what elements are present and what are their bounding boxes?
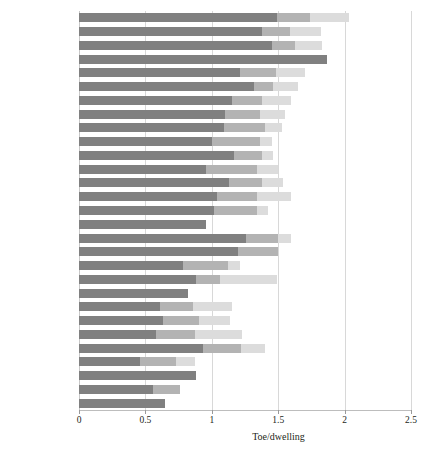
bar-segment-2	[163, 316, 199, 325]
bar-row: Ireland	[79, 25, 411, 39]
stacked-bar	[79, 165, 278, 174]
x-tick-mark	[345, 410, 346, 414]
bar-row: Malta	[79, 396, 411, 410]
bar-segment-3	[290, 27, 321, 36]
x-axis-title: Toe/dwelling	[252, 431, 305, 442]
bar-segment-2	[240, 68, 276, 77]
bar-row: Slovenia	[79, 217, 411, 231]
stacked-bar	[79, 41, 322, 50]
bar-row: Portugal	[79, 369, 411, 383]
bar-segment-2	[272, 41, 296, 50]
bar-segment-3	[265, 123, 282, 132]
bar-segment-1	[79, 178, 229, 187]
bar-segment-2	[212, 137, 260, 146]
bar-segment-3	[276, 68, 305, 77]
bar-row: Italy	[79, 286, 411, 300]
bar-row: Austria	[79, 66, 411, 80]
stacked-bar	[79, 302, 232, 311]
bar-segment-1	[79, 289, 188, 298]
chart-container: FinlandIrelandBelgiumNorwayAustriaLatvia…	[0, 0, 427, 457]
bar-segment-3	[241, 344, 265, 353]
bar-row: Denmark	[79, 94, 411, 108]
x-tick-mark	[79, 410, 80, 414]
stacked-bar	[79, 289, 188, 298]
bar-segment-2	[140, 357, 176, 366]
bar-row: Spain	[79, 355, 411, 369]
bar-row: Croatia	[79, 314, 411, 328]
bar-segment-1	[79, 110, 225, 119]
bar-segment-3	[260, 137, 272, 146]
x-axis-title-wrap: Toe/dwelling	[0, 431, 427, 442]
bar-segment-3	[295, 41, 322, 50]
bar-segment-1	[79, 27, 262, 36]
bar-segment-2	[214, 206, 256, 215]
bar-segment-2	[225, 110, 260, 119]
stacked-bar	[79, 399, 165, 408]
bar-segment-1	[79, 151, 234, 160]
x-tick-label: 0	[59, 415, 99, 425]
bar-segment-3	[257, 206, 268, 215]
bar-segment-2	[196, 275, 220, 284]
bar-segment-1	[79, 399, 165, 408]
stacked-bar	[79, 110, 285, 119]
bar-segment-1	[79, 302, 160, 311]
stacked-bar	[79, 206, 268, 215]
bar-segment-1	[79, 344, 203, 353]
bar-segment-3	[278, 234, 291, 243]
bar-segment-1	[79, 13, 277, 22]
stacked-bar	[79, 137, 272, 146]
bar-segment-3	[176, 357, 195, 366]
bar-row: Poland	[79, 245, 411, 259]
bar-row: Sweden	[79, 121, 411, 135]
x-tick-label: 0.5	[125, 415, 165, 425]
bar-row: United Kingdom	[79, 162, 411, 176]
x-tick-mark	[411, 410, 412, 414]
bar-segment-1	[79, 247, 238, 256]
bar-row: Finland	[79, 11, 411, 25]
bar-row: EU-27	[79, 204, 411, 218]
bar-segment-2	[277, 13, 310, 22]
bar-segment-1	[79, 123, 224, 132]
bar-row: Estonia	[79, 135, 411, 149]
bar-segment-2	[183, 261, 228, 270]
bar-segment-2	[232, 96, 263, 105]
gridline-2-5	[411, 11, 412, 410]
bar-row: Norway	[79, 52, 411, 66]
x-tick-mark	[212, 410, 213, 414]
stacked-bar	[79, 96, 291, 105]
bar-segment-2	[246, 234, 278, 243]
bar-segment-1	[79, 357, 140, 366]
bar-row: Romania	[79, 300, 411, 314]
stacked-bar	[79, 178, 283, 187]
bar-segment-3	[262, 96, 291, 105]
bar-row: Greece	[79, 259, 411, 273]
bar-segment-2	[153, 385, 180, 394]
bar-row: Belgium	[79, 39, 411, 53]
bar-row: Latvia	[79, 80, 411, 94]
bar-row: Czech Republic	[79, 176, 411, 190]
bar-segment-3	[262, 178, 283, 187]
stacked-bar	[79, 82, 298, 91]
bar-row: France	[79, 149, 411, 163]
bar-segment-3	[273, 82, 298, 91]
x-tick-mark	[145, 410, 146, 414]
bar-segment-2	[238, 247, 278, 256]
bar-segment-1	[79, 55, 327, 64]
stacked-bar	[79, 344, 265, 353]
stacked-bar	[79, 123, 282, 132]
bar-segment-1	[79, 220, 206, 229]
stacked-bar	[79, 261, 240, 270]
x-axis-line	[79, 410, 411, 411]
bar-segment-2	[254, 82, 273, 91]
bar-row: Lithuania	[79, 341, 411, 355]
bar-segment-1	[79, 41, 272, 50]
stacked-bar	[79, 371, 196, 380]
bar-row: Cyprus	[79, 327, 411, 341]
x-tick-label: 1.5	[258, 415, 298, 425]
stacked-bar	[79, 330, 242, 339]
bar-segment-1	[79, 275, 196, 284]
bar-row: Slovakia	[79, 272, 411, 286]
bar-segment-3	[257, 192, 292, 201]
stacked-bar	[79, 385, 180, 394]
x-tick-label: 2.5	[391, 415, 427, 425]
